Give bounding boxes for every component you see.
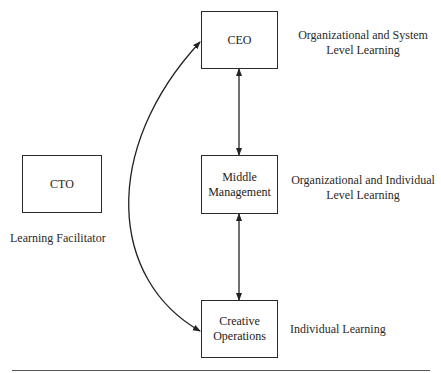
middle-management-box: Middle Management <box>201 155 278 214</box>
bottom-rule <box>12 370 430 371</box>
creative-operations-box: Creative Operations <box>201 300 278 358</box>
middle-label-line2: Management <box>208 185 271 200</box>
cto-box: CTO <box>22 155 102 213</box>
middle-label-line1: Middle <box>208 170 271 185</box>
creative-label-line1: Creative <box>213 314 266 329</box>
ceo-box: CEO <box>201 11 278 69</box>
ceo-annotation: Organizational and System Level Learning <box>293 28 433 58</box>
cto-label: CTO <box>50 177 74 192</box>
creative-annotation: Individual Learning <box>290 322 386 337</box>
middle-annotation-line2: Level Learning <box>285 188 441 203</box>
ceo-annotation-line2: Level Learning <box>293 43 433 58</box>
ceo-label: CEO <box>228 33 252 48</box>
middle-annotation-line1: Organizational and Individual <box>285 173 441 188</box>
curved-arrow <box>129 42 200 331</box>
creative-label-line2: Operations <box>213 329 266 344</box>
ceo-annotation-line1: Organizational and System <box>293 28 433 43</box>
cto-annotation-line1: Learning Facilitator <box>10 231 106 246</box>
cto-annotation: Learning Facilitator <box>10 231 106 246</box>
creative-annotation-line1: Individual Learning <box>290 322 386 337</box>
middle-annotation: Organizational and Individual Level Lear… <box>285 173 441 203</box>
